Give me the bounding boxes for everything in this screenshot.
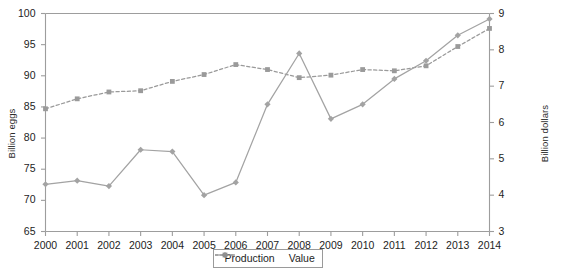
y-axis-left-tick-label: 75	[10, 162, 36, 174]
data-point-production-2009	[329, 73, 334, 78]
data-point-value-2000	[42, 181, 48, 187]
legend-entry-value[interactable]: Value	[285, 252, 315, 264]
x-axis-tick-label: 2013	[441, 239, 475, 251]
x-axis-tick-label: 2000	[29, 239, 63, 251]
data-point-production-2010	[360, 67, 365, 72]
y-axis-left-tick-label: 85	[10, 100, 36, 112]
y-axis-left-tick-label: 95	[10, 38, 36, 50]
chart-container: Billion eggs Billion dollars 65707580859…	[0, 0, 561, 273]
y-axis-right-tick-label: 8	[499, 43, 525, 55]
data-point-value-2009	[328, 116, 334, 122]
x-axis-tick-label: 2004	[155, 239, 189, 251]
x-axis-tick-label: 2003	[124, 239, 158, 251]
x-axis-tick-label: 2014	[473, 239, 507, 251]
x-axis-tick-label: 2001	[60, 239, 94, 251]
data-point-value-2007	[264, 101, 270, 107]
y-axis-right-tick-label: 9	[499, 7, 525, 19]
data-point-production-2004	[170, 79, 175, 84]
data-point-production-2008	[297, 75, 302, 80]
y-axis-left-tick-label: 70	[10, 193, 36, 205]
data-point-production-2005	[202, 72, 207, 77]
y-axis-left-tick-label: 65	[10, 225, 36, 237]
plot-area	[0, 0, 561, 273]
data-point-production-2007	[265, 67, 270, 72]
data-point-production-2014	[487, 26, 492, 31]
data-point-production-2013	[455, 44, 460, 49]
y-axis-right-tick-label: 4	[499, 188, 525, 200]
data-point-production-2012	[424, 63, 429, 68]
y-axis-left-tick-label: 80	[10, 131, 36, 143]
data-point-value-2008	[296, 50, 302, 56]
x-axis-tick-label: 2002	[92, 239, 126, 251]
y-axis-left-tick-label: 100	[10, 7, 36, 19]
x-axis-tick-label: 2010	[346, 239, 380, 251]
y-axis-left-tick-label: 90	[10, 69, 36, 81]
y-axis-right-tick-label: 3	[499, 225, 525, 237]
y-axis-right-tick-label: 6	[499, 116, 525, 128]
data-point-production-2003	[138, 88, 143, 93]
data-point-production-2006	[233, 62, 238, 67]
y-axis-right-tick-label: 5	[499, 152, 525, 164]
legend-label: Value	[289, 252, 315, 264]
chart-legend: ProductionValue	[213, 249, 323, 268]
data-point-production-2000	[43, 106, 48, 111]
data-point-production-2002	[107, 90, 112, 95]
data-point-value-2001	[74, 178, 80, 184]
y-axis-right-tick-label: 7	[499, 79, 525, 91]
data-point-value-2014	[486, 16, 492, 22]
data-point-production-2011	[392, 68, 397, 73]
x-axis-tick-label: 2011	[377, 239, 411, 251]
data-point-production-2001	[75, 96, 80, 101]
data-point-value-2006	[233, 179, 239, 185]
x-axis-tick-label: 2012	[409, 239, 443, 251]
